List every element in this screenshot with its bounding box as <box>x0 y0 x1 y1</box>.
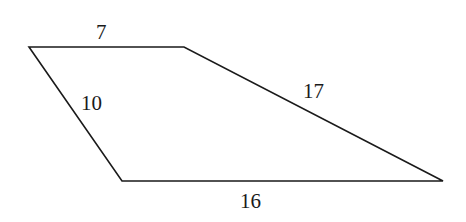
trapezoid-diagram: 7 10 17 16 <box>0 0 466 222</box>
right-side-label: 17 <box>303 79 324 103</box>
left-side-label: 10 <box>81 91 102 115</box>
top-side-label: 7 <box>96 20 107 44</box>
bottom-side-label: 16 <box>240 189 261 213</box>
